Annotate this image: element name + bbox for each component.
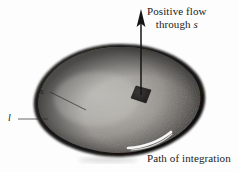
through-text: through xyxy=(156,18,194,30)
positive-flow-line1: Positive flow xyxy=(147,5,207,17)
page-smudge xyxy=(78,158,138,162)
contour-symbol-label: l xyxy=(8,112,11,123)
surface-symbol-label: s xyxy=(40,86,44,96)
surface-highlight xyxy=(54,72,138,126)
positive-flow-label: Positive flow through s xyxy=(147,5,207,31)
through-surface-symbol: s xyxy=(194,18,198,30)
positive-flow-line2: through s xyxy=(147,18,207,31)
path-of-integration-label: Path of integration xyxy=(147,152,231,164)
